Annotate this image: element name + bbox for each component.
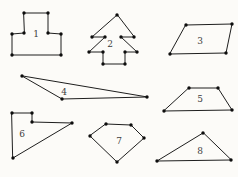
vertex-dot — [10, 53, 13, 56]
tree-shape-polygon-outline — [89, 15, 137, 64]
shape-number-label: 2 — [107, 39, 113, 49]
vertex-dot — [230, 108, 233, 111]
vertex-dot — [187, 86, 190, 89]
vertex-dot — [59, 53, 62, 56]
vertex-dot — [119, 35, 122, 38]
shape-number-label: 8 — [197, 146, 203, 156]
vertex-dot — [142, 136, 145, 139]
vertex-dot — [101, 50, 104, 53]
vertex-dot — [115, 160, 118, 163]
figure-page: 12345678 — [0, 0, 238, 177]
shape-number-label: 5 — [197, 94, 203, 104]
vertex-dot — [10, 32, 13, 35]
vertex-dot — [162, 109, 165, 112]
vertex-dot — [229, 158, 232, 161]
vertex-dot — [10, 111, 13, 114]
shape-number-label: 3 — [197, 36, 203, 46]
shape-number-label: 4 — [61, 87, 67, 97]
vertex-dot — [145, 95, 148, 98]
vertex-dot — [60, 97, 63, 100]
vertex-dot — [11, 156, 14, 159]
shape-group-pentagon: 7 — [88, 122, 145, 163]
shape-group-t-shape-octagon: 1 — [10, 11, 62, 56]
vertex-dot — [168, 52, 171, 55]
vertex-dot — [70, 121, 73, 124]
shape-group-trapezoid: 5 — [162, 86, 233, 112]
thin-obtuse-triangle-outline — [22, 76, 147, 99]
vertex-dot — [104, 122, 107, 125]
vertex-dot — [129, 123, 132, 126]
shape-group-thin-obtuse-triangle: 4 — [20, 74, 148, 100]
vertex-dot — [123, 50, 126, 53]
vertex-dot — [88, 134, 91, 137]
vertex-dot — [132, 35, 135, 38]
obtuse-triangle-outline — [157, 133, 231, 161]
shape-number-label: 7 — [116, 136, 122, 146]
vertex-dot — [184, 23, 187, 26]
shapes-figure: 12345678 — [0, 0, 238, 177]
vertex-dot — [30, 120, 33, 123]
vertex-dot — [201, 131, 204, 134]
shape-group-parallelogram: 3 — [168, 22, 233, 55]
vertex-dot — [30, 111, 33, 114]
shape-number-label: 1 — [33, 29, 39, 39]
vertex-dot — [46, 31, 49, 34]
vertex-dot — [20, 74, 23, 77]
vertex-dot — [87, 50, 90, 53]
vertex-dot — [230, 22, 233, 25]
vertex-dot — [22, 31, 25, 34]
vertex-dot — [123, 62, 126, 65]
vertex-dot — [224, 51, 227, 54]
vertex-dot — [59, 32, 62, 35]
vertex-dot — [216, 86, 219, 89]
vertex-dot — [90, 35, 93, 38]
shape-group-concave-pentagon: 6 — [10, 111, 73, 159]
vertex-dot — [101, 62, 104, 65]
vertex-dot — [22, 11, 25, 14]
vertex-dot — [46, 11, 49, 14]
vertex-dot — [135, 50, 138, 53]
shape-number-label: 6 — [19, 129, 25, 139]
shape-group-tree-shape-polygon: 2 — [87, 13, 138, 65]
vertex-dot — [155, 159, 158, 162]
shape-group-obtuse-triangle: 8 — [155, 131, 232, 162]
vertex-dot — [115, 13, 118, 16]
